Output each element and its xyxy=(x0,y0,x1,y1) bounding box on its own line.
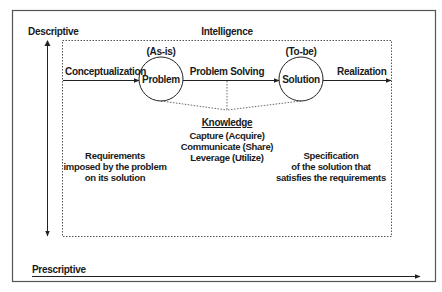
knowledge-title: Knowledge xyxy=(181,117,274,128)
note-line: on its solution xyxy=(63,172,166,183)
prescriptive-label: Prescriptive xyxy=(32,264,86,275)
knowledge-item: Communicate (Share) xyxy=(181,141,274,152)
vertical-axis-arrowhead-top xyxy=(45,40,51,46)
descriptive-label: Descriptive xyxy=(28,26,79,37)
note-line: Requirements xyxy=(63,150,166,161)
knowledge-item: Leverage (Utilize) xyxy=(181,152,274,163)
problem-state-label: (As-is) xyxy=(146,46,175,57)
knowledge-connector-solution xyxy=(227,101,301,110)
problem-node-label: Problem xyxy=(142,74,180,85)
note-line: satisfies the requirements xyxy=(276,172,386,183)
note-line: of the solution that xyxy=(276,161,386,172)
note-line: imposed by the problem xyxy=(63,161,166,172)
solution-state-label: (To-be) xyxy=(285,46,316,57)
intelligence-label: Intelligence xyxy=(201,26,252,37)
knowledge-connector-problem xyxy=(161,101,227,110)
requirements-note: Requirements imposed by the problem on i… xyxy=(63,150,166,183)
solution-node-label: Solution xyxy=(282,74,320,85)
conceptualization-label: Conceptualization xyxy=(65,66,146,77)
problem-solving-label: Problem Solving xyxy=(190,66,264,77)
knowledge-block: Knowledge Capture (Acquire) Communicate … xyxy=(181,117,274,163)
specification-note: Specification of the solution that satis… xyxy=(276,150,386,183)
note-line: Specification xyxy=(276,150,386,161)
realization-label: Realization xyxy=(337,66,387,77)
knowledge-item: Capture (Acquire) xyxy=(181,130,274,141)
